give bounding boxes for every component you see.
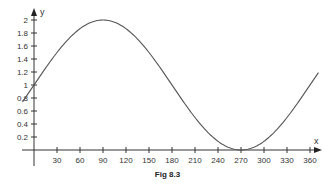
axis-ticks: 3060901201501802102402703003303600.20.40… <box>17 16 317 165</box>
y-tick-label: 0.2 <box>17 133 29 142</box>
y-axis-label: y <box>40 7 45 17</box>
y-tick-label: 1.8 <box>17 29 29 38</box>
curve-line <box>23 20 319 150</box>
x-tick-label: 150 <box>142 156 156 165</box>
axes: xy <box>22 7 322 166</box>
x-tick-label: 90 <box>99 156 108 165</box>
x-tick-label: 270 <box>234 156 248 165</box>
y-tick-label: 1.6 <box>17 42 29 51</box>
y-tick-label: 0.6 <box>17 107 29 116</box>
sine-chart: xy 3060901201501802102402703003303600.20… <box>0 0 335 170</box>
x-tick-label: 210 <box>188 156 202 165</box>
y-tick-label: 1 <box>24 81 29 90</box>
y-axis-arrow-icon <box>31 8 37 16</box>
x-tick-label: 240 <box>211 156 225 165</box>
y-tick-label: 1.2 <box>17 68 29 77</box>
figure-caption: Fig 8.3 <box>0 170 335 179</box>
x-tick-label: 300 <box>257 156 271 165</box>
x-tick-label: 330 <box>280 156 294 165</box>
y-tick-label: 1.4 <box>17 55 29 64</box>
x-tick-label: 180 <box>165 156 179 165</box>
x-axis-arrow-icon <box>314 147 322 153</box>
x-tick-label: 360 <box>303 156 317 165</box>
x-tick-label: 30 <box>53 156 62 165</box>
y-tick-label: 0.4 <box>17 120 29 129</box>
x-axis-label: x <box>314 136 319 146</box>
y-tick-label: 2 <box>24 16 29 25</box>
x-tick-label: 120 <box>119 156 133 165</box>
x-tick-label: 60 <box>76 156 85 165</box>
